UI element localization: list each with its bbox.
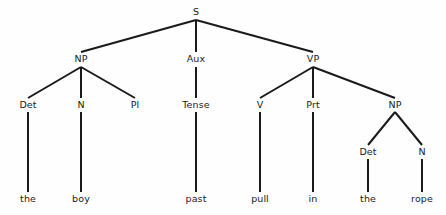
edge-vp-v: [260, 67, 313, 98]
node-v: V: [257, 100, 264, 110]
edge-s-vp: [196, 20, 313, 52]
leaf-boy: boy: [72, 194, 90, 204]
node-vp: VP: [307, 54, 319, 64]
leaf-in: in: [309, 194, 318, 204]
leaf-pull: pull: [251, 194, 269, 204]
node-n-2: N: [418, 147, 425, 157]
node-s: S: [193, 7, 199, 17]
node-det-2: Det: [359, 147, 376, 157]
leaf-the-2: the: [360, 194, 376, 204]
syntax-tree-figure: S NP Aux VP Det N Pl Tense V Prt NP Det …: [0, 0, 446, 215]
edge-s-np: [81, 20, 196, 52]
node-aux: Aux: [187, 54, 205, 64]
edge-vp-np: [313, 67, 395, 98]
node-np-subject: NP: [74, 54, 87, 64]
edge-np2-det: [368, 112, 395, 145]
node-tense: Tense: [182, 100, 209, 110]
node-pl: Pl: [131, 100, 140, 110]
edge-np-pl: [81, 67, 135, 98]
leaf-the-1: the: [20, 194, 36, 204]
node-n-1: N: [77, 100, 84, 110]
node-det-1: Det: [19, 100, 36, 110]
edge-np-det: [28, 67, 81, 98]
node-np-object: NP: [388, 100, 401, 110]
edge-np2-n: [395, 112, 422, 145]
tree-edges: [0, 0, 446, 215]
node-prt: Prt: [306, 100, 320, 110]
leaf-past: past: [186, 194, 207, 204]
leaf-rope: rope: [411, 194, 433, 204]
